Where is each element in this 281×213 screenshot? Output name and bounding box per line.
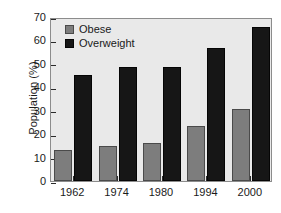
- chart-legend: ObeseOverweight: [65, 23, 135, 51]
- bar-overweight-2000: [252, 27, 270, 181]
- bar-overweight-1994: [207, 48, 225, 181]
- x-axis-tick-label: 1994: [182, 186, 228, 198]
- bar-obese-1980: [143, 143, 161, 181]
- y-axis-tick-label: 10: [2, 153, 46, 164]
- plot-area: ObeseOverweight: [50, 18, 272, 182]
- y-axis-tick-label: 30: [2, 106, 46, 117]
- bar-overweight-1974: [119, 67, 137, 181]
- x-axis-tick-label: 1980: [138, 186, 184, 198]
- y-axis-tick-label: 70: [2, 12, 46, 23]
- x-axis-tick-label: 1962: [49, 186, 95, 198]
- bar-obese-1994: [187, 126, 205, 181]
- legend-item-overweight: Overweight: [65, 37, 135, 50]
- bar-overweight-1980: [163, 67, 181, 181]
- y-axis-tick-label: 60: [2, 35, 46, 46]
- y-axis-tick-label: 40: [2, 82, 46, 93]
- y-axis-tick: [51, 112, 56, 113]
- x-axis-tick-label: 2000: [227, 186, 273, 198]
- bar-obese-1962: [54, 150, 72, 181]
- y-axis-tick: [51, 89, 56, 90]
- bar-obese-2000: [232, 109, 250, 181]
- legend-label: Obese: [79, 24, 111, 35]
- legend-swatch-overweight-icon: [65, 39, 74, 48]
- y-axis-tick-label: 20: [2, 129, 46, 140]
- y-axis-tick: [51, 183, 56, 184]
- legend-swatch-obese-icon: [65, 25, 74, 34]
- y-axis-tick: [51, 136, 56, 137]
- legend-label: Overweight: [79, 38, 135, 49]
- chart-figure: Population (%) 010203040506070 196219741…: [0, 0, 281, 213]
- bar-overweight-1962: [74, 75, 92, 181]
- y-axis-tick: [51, 42, 56, 43]
- y-axis-tick-label: 0: [2, 176, 46, 187]
- x-axis-tick-label: 1974: [94, 186, 140, 198]
- legend-item-obese: Obese: [65, 23, 135, 36]
- bar-obese-1974: [99, 146, 117, 181]
- y-axis-tick-label: 50: [2, 59, 46, 70]
- y-axis-tick: [51, 65, 56, 66]
- y-axis-tick: [51, 19, 56, 20]
